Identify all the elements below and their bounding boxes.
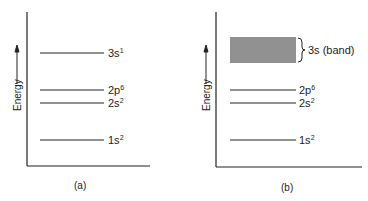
energy-axis-label: Energy xyxy=(201,79,212,111)
energy-axis-label: Energy xyxy=(12,79,23,111)
level-label-3s: 3s1 xyxy=(108,48,124,59)
level-label-2p: 2p6 xyxy=(108,85,124,96)
level-label-2s: 2s2 xyxy=(108,98,124,109)
energy-arrow-icon xyxy=(15,45,19,84)
panel-b-levels xyxy=(230,90,296,140)
brace-icon xyxy=(298,38,305,62)
band-label-3s: 3s (band) xyxy=(308,45,354,56)
panel-a-levels xyxy=(40,53,104,140)
panel-a-caption: (a) xyxy=(74,180,86,191)
level-label-1s: 1s2 xyxy=(299,135,315,146)
panel-a-axes xyxy=(27,12,150,166)
energy-arrow-icon xyxy=(204,45,208,84)
level-label-1s: 1s2 xyxy=(108,135,124,146)
level-label-2s: 2s2 xyxy=(299,98,315,109)
panel-b-caption: (b) xyxy=(281,182,293,193)
level-label-2p: 2p6 xyxy=(299,85,315,96)
3s-band xyxy=(230,38,296,62)
